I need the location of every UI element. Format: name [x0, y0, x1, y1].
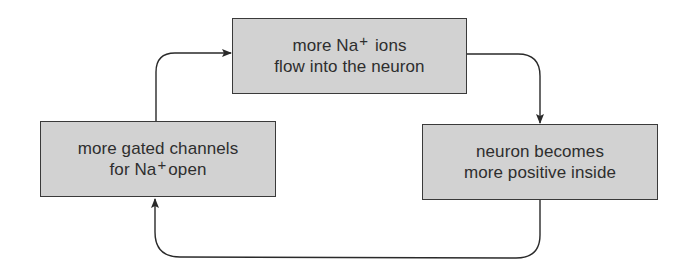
- text: for Na: [110, 160, 157, 179]
- node-left-line2: for Na+open: [110, 159, 207, 180]
- node-right-line2: more positive inside: [464, 162, 616, 183]
- text: open: [168, 160, 206, 179]
- arrow-left-to-top: [156, 53, 231, 121]
- superscript-plus: +: [359, 32, 368, 49]
- text: more Na: [292, 36, 358, 55]
- node-top-line1: more Na+ ions: [292, 35, 406, 56]
- node-right-line1: neuron becomes: [476, 141, 604, 162]
- node-neuron-more-positive: neuron becomes more positive inside: [422, 124, 658, 200]
- node-top-line2: flow into the neuron: [274, 56, 424, 77]
- arrow-right-to-left: [155, 199, 540, 258]
- arrow-top-to-right: [467, 54, 540, 123]
- node-more-na-ions-flow-in: more Na+ ions flow into the neuron: [232, 18, 467, 94]
- superscript-plus: +: [157, 156, 166, 173]
- node-more-gated-channels-open: more gated channels for Na+open: [40, 121, 276, 197]
- text: ions: [370, 36, 406, 55]
